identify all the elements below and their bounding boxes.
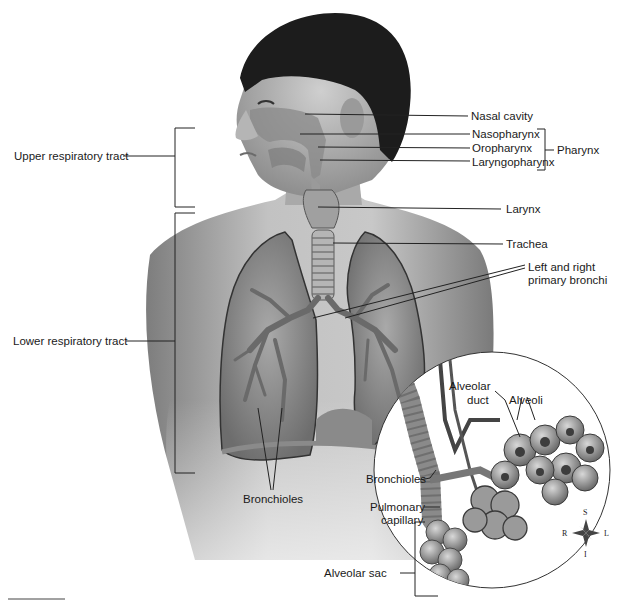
anatomy-illustration [0, 0, 623, 600]
label-upper-respiratory-tract: Upper respiratory tract [14, 150, 128, 163]
label-trachea: Trachea [506, 238, 548, 251]
label-primary-bronchi-line1: Left and right [528, 261, 595, 274]
label-alveolar-duct-line2: duct [467, 394, 489, 407]
label-pulmonary-capillary-line1: Pulmonary [370, 501, 425, 514]
compass-right: R [562, 529, 567, 538]
label-bronchioles-lung: Bronchioles [243, 493, 303, 506]
label-laryngopharynx: Laryngopharynx [472, 156, 554, 169]
label-bronchioles-inset: Bronchioles [366, 473, 426, 486]
label-nasopharynx: Nasopharynx [472, 128, 540, 141]
label-pharynx: Pharynx [557, 144, 599, 157]
compass-left: L [604, 529, 609, 538]
label-nasal-cavity: Nasal cavity [471, 110, 533, 123]
label-alveoli: Alveoli [509, 394, 543, 407]
label-lower-respiratory-tract: Lower respiratory tract [13, 335, 127, 348]
label-alveolar-sac: Alveolar sac [324, 567, 387, 580]
mediastinum [316, 409, 372, 445]
respiratory-diagram: Upper respiratory tract Lower respirator… [0, 0, 623, 600]
label-primary-bronchi-line2: primary bronchi [528, 274, 607, 287]
compass-superior: S [583, 508, 587, 517]
label-oropharynx: Oropharynx [472, 142, 532, 155]
head [235, 13, 410, 196]
label-larynx: Larynx [506, 203, 541, 216]
label-pulmonary-capillary-line2: capillary [381, 514, 423, 527]
label-alveolar-duct-line1: Alveolar [449, 380, 491, 393]
compass-inferior: I [584, 550, 587, 559]
